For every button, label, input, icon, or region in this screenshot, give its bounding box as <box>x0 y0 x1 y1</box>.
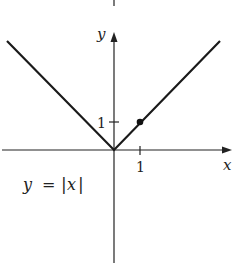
equation-label: y = | x | <box>22 174 84 194</box>
point-1-1 <box>137 119 144 126</box>
x-axis-label: x <box>223 156 232 174</box>
eq-x: x <box>67 175 76 194</box>
y-axis-arrow-icon <box>111 32 118 42</box>
x-axis-arrow-icon <box>222 147 232 154</box>
absolute-value-graph: y x 1 1 y = | x | <box>0 0 241 263</box>
y-axis-label: y <box>96 25 106 43</box>
eq-y: y <box>22 175 33 194</box>
eq-bar-right: | <box>78 174 84 194</box>
eq-equals: = <box>42 175 55 194</box>
eq-bar-left: | <box>61 174 67 194</box>
x-tick-label: 1 <box>136 159 145 175</box>
y-tick-label: 1 <box>97 115 106 131</box>
